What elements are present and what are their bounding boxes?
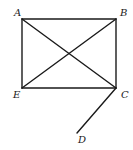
point-label-b: B bbox=[119, 7, 127, 18]
geometry-diagram: A B C D E bbox=[0, 0, 133, 150]
labels: A B C D E bbox=[12, 7, 129, 145]
point-label-e: E bbox=[12, 89, 21, 100]
segment-cd bbox=[77, 88, 116, 133]
point-label-a: A bbox=[13, 7, 21, 18]
point-label-c: C bbox=[121, 89, 129, 100]
segments bbox=[22, 19, 116, 133]
point-label-d: D bbox=[77, 134, 86, 145]
